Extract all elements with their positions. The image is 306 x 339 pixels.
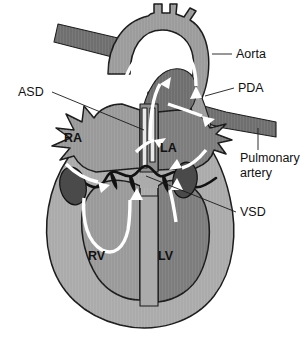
label-rv: RV [88,249,106,263]
label-vsd: VSD [240,205,266,219]
label-aorta: Aorta [236,47,266,61]
label-pulmonary-artery-line2: artery [240,166,273,180]
label-ra: RA [64,131,82,145]
label-pda: PDA [238,81,264,95]
label-pulmonary-artery-line1: Pulmonary [240,151,300,165]
label-lv: LV [158,249,174,263]
label-asd: ASD [18,85,44,99]
heart-defects-diagram: Aorta PDA Pulmonary artery VSD ASD RA LA… [0,0,306,339]
ventricular-septum-vsd [140,176,158,306]
label-la: LA [160,141,177,155]
